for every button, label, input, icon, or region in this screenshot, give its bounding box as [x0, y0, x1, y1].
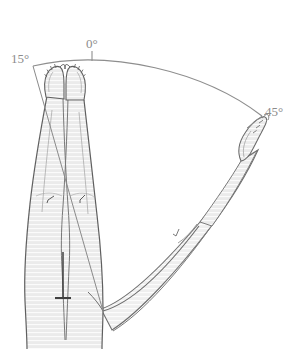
angle-label-adduction: 15°: [11, 52, 29, 65]
angle-label-neutral: 0°: [86, 37, 98, 50]
anatomy-diagram: [0, 0, 292, 360]
abducted-thigh-medial-edge: [103, 226, 199, 311]
neutral-limb: [25, 64, 103, 349]
neutral-foot-left: [45, 64, 66, 99]
neutral-foot-right: [65, 64, 86, 100]
abducted-limb: [101, 114, 269, 331]
neutral-foot-right-shape: [66, 66, 85, 100]
abducted-patella-mark: [173, 229, 179, 236]
illustration-canvas: 15° 0° 45°: [0, 0, 292, 360]
abducted-shank-shape: [200, 151, 257, 226]
angle-label-abduction: 45°: [265, 105, 283, 118]
